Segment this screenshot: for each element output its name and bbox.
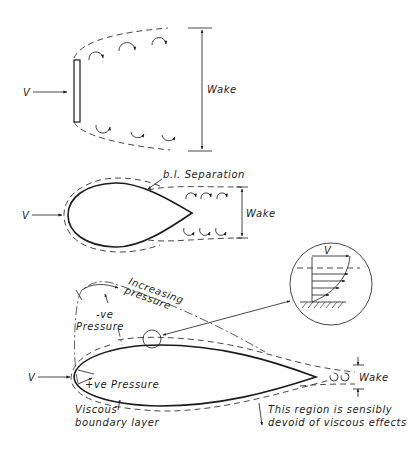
positive-pressure-annotation: +ve Pressure bbox=[78, 370, 159, 390]
wake-label: Wake bbox=[207, 84, 237, 95]
velocity-arrow: V bbox=[23, 87, 67, 98]
wake-boundary-upper bbox=[148, 187, 242, 190]
velocity-label: V bbox=[28, 372, 36, 383]
panel-bluff-body: V b.l. Separation Wake bbox=[22, 169, 276, 252]
neg-pressure-label-1: -ve bbox=[96, 309, 113, 320]
increasing-pressure-annotation: Increasing pressure bbox=[82, 276, 185, 312]
wall-hatching bbox=[302, 302, 343, 308]
wake-dimension: Wake bbox=[353, 357, 389, 397]
separation-label: b.l. Separation bbox=[163, 169, 245, 180]
boundary-layer-diagram: V Wake V bbox=[0, 0, 411, 451]
viscous-bl-label-2: boundary layer bbox=[75, 417, 160, 428]
viscous-bl-label-1: Viscous bbox=[75, 404, 117, 415]
wake-boundary-lower bbox=[74, 122, 170, 150]
upper-bl-outline bbox=[118, 337, 355, 372]
wake-boundary-lower bbox=[148, 238, 242, 241]
neg-pressure-label-2: Pressure bbox=[76, 321, 124, 332]
velocity-label: V bbox=[23, 87, 31, 98]
vortices-lower bbox=[184, 228, 226, 235]
flat-plate bbox=[74, 60, 80, 122]
wake-boundary-lower bbox=[300, 384, 355, 386]
wake-label: Wake bbox=[246, 208, 276, 219]
vortices-lower bbox=[96, 125, 175, 141]
viscous-bl-annotation: Viscous boundary layer bbox=[75, 400, 160, 428]
pos-pressure-label: +ve Pressure bbox=[85, 379, 159, 390]
inviscid-region-label-2: devoid of viscous effects bbox=[268, 417, 407, 428]
inviscid-region-annotation: This region is sensibly devoid of viscou… bbox=[259, 403, 407, 428]
vortices-upper bbox=[186, 193, 227, 199]
inset-velocity-label: V bbox=[324, 245, 332, 256]
panel-streamlined-body: V Increasing pressure -ve Pressure +ve P… bbox=[28, 243, 407, 428]
inviscid-region-label-1: This region is sensibly bbox=[268, 404, 393, 415]
aerofoil-body bbox=[74, 345, 316, 406]
teardrop-body bbox=[68, 183, 192, 247]
velocity-profile-inset: V bbox=[290, 243, 372, 325]
panel-flat-plate: V Wake bbox=[23, 28, 237, 151]
wake-boundary-upper bbox=[74, 28, 168, 58]
wake-vortices bbox=[330, 373, 349, 381]
wake-dimension: Wake bbox=[188, 28, 237, 151]
vortices-upper bbox=[89, 37, 166, 60]
detail-leader-line bbox=[163, 301, 290, 335]
wake-label: Wake bbox=[359, 372, 389, 383]
velocity-arrow: V bbox=[28, 372, 70, 383]
negative-pressure-annotation: -ve Pressure bbox=[76, 294, 124, 332]
velocity-label: V bbox=[22, 210, 30, 221]
separation-annotation: b.l. Separation bbox=[148, 169, 245, 189]
wake-dimension: Wake bbox=[236, 187, 276, 238]
velocity-arrow: V bbox=[22, 210, 62, 221]
